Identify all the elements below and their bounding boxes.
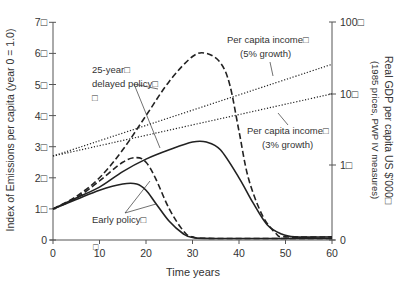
x-tick-label: 60: [326, 247, 338, 259]
y-left-tick-label: 3□: [35, 141, 48, 153]
annotation-early-policy: Early policy□: [92, 214, 147, 225]
annotation-income-3b: (3% growth): [262, 139, 313, 150]
series-line: [53, 158, 332, 239]
annotation-income-3: Per capita income□: [247, 125, 329, 136]
x-tick-label: 20: [140, 247, 152, 259]
y-right-axis-label: Real GDP per capita US $'000□: [383, 56, 395, 205]
y-left-axis-label: Index of Emissions per capita (year 0 = …: [4, 29, 16, 232]
x-tick-label: 0: [50, 247, 56, 259]
annotation-income-5: Per capita income□: [227, 34, 309, 45]
x-tick-label: 40: [233, 247, 245, 259]
annotation-income-5b: (5% growth): [240, 48, 291, 59]
x-tick-label: 30: [187, 247, 199, 259]
annotation-delayed-3: □: [92, 92, 98, 103]
y-left-tick-label: 4□: [35, 110, 48, 122]
y-left-tick-label: 6□: [35, 47, 48, 59]
y-left-tick-label: 5□: [35, 79, 48, 91]
y-right-tick-label: 100□: [340, 16, 365, 28]
y-left-tick-label: 1□: [35, 203, 48, 215]
chart: 0102030405060 01□2□3□4□5□6□7□ 01□10□100□…: [0, 0, 400, 287]
series-line: [53, 183, 332, 238]
y-left-tick-label: 7□: [35, 16, 48, 28]
y-left-tick-label: 0: [41, 234, 47, 246]
annotation-delayed-1: 25-year□: [92, 64, 130, 75]
y-right-tick-label: 1□: [340, 159, 353, 171]
x-tick-label: 50: [280, 247, 292, 259]
x-axis-label: Time years: [166, 266, 220, 278]
annotation-delayed-2: delayed policy□: [92, 78, 158, 89]
y-right-tick-label: 10□: [340, 88, 359, 100]
y-right-tick-label: 0: [340, 234, 346, 246]
y-right-axis-sublabel: (1985 prices, PWP IV measures): [370, 61, 381, 199]
y-right-ticks: 01□10□100□: [329, 16, 365, 246]
stray-marker: □: [93, 242, 99, 252]
y-left-tick-label: 2□: [35, 172, 48, 184]
